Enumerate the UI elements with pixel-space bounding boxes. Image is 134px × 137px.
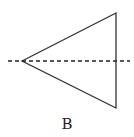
figure-label: B	[0, 115, 134, 133]
figure-b: B	[0, 0, 134, 137]
